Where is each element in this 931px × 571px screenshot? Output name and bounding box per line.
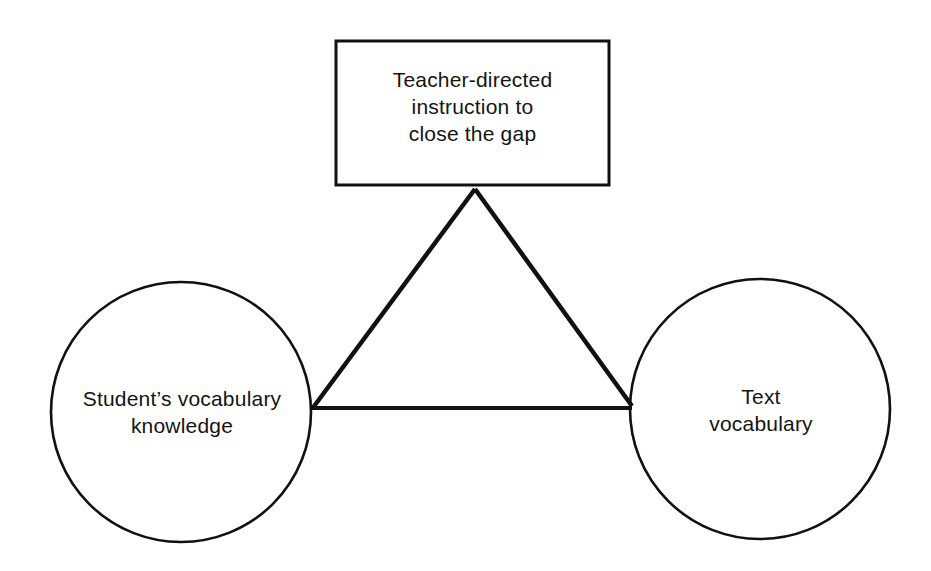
left-circle-label: Student’s vocabulary knowledge bbox=[51, 385, 313, 439]
right-circle-label: Text vocabulary bbox=[630, 383, 892, 437]
right-circle-line-2: vocabulary bbox=[630, 410, 892, 437]
top-box-line-2: instruction to bbox=[335, 93, 610, 120]
edge-top-to-left bbox=[312, 189, 475, 409]
edge-top-to-right bbox=[475, 189, 632, 406]
left-circle-line-2: knowledge bbox=[51, 412, 313, 439]
top-box-line-3: close the gap bbox=[335, 120, 610, 147]
left-circle-line-1: Student’s vocabulary bbox=[51, 385, 313, 412]
top-box-label: Teacher-directed instruction to close th… bbox=[335, 66, 610, 147]
right-circle-line-1: Text bbox=[630, 383, 892, 410]
top-box-line-1: Teacher-directed bbox=[335, 66, 610, 93]
